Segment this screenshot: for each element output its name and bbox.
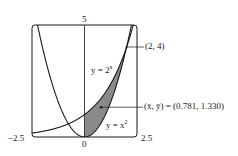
x-max-label: 2.5 bbox=[141, 134, 152, 143]
parabola-curve-label: y = x2 bbox=[106, 121, 128, 130]
x-origin-label: 0 bbox=[82, 140, 87, 149]
x-min-label: −2.5 bbox=[8, 134, 24, 143]
intersection-marker bbox=[126, 46, 128, 48]
intersection-label: (2, 4) bbox=[145, 42, 165, 51]
exponential-curve-label: y = 2x bbox=[91, 66, 113, 75]
plot-canvas bbox=[0, 0, 238, 156]
centroid-plot: 5 −2.5 2.5 0 (2, 4) (x̄, ȳ) = (0.781, 1.… bbox=[0, 0, 238, 156]
y-max-label: 5 bbox=[82, 15, 87, 24]
centroid-marker bbox=[100, 106, 103, 109]
centroid-label: (x̄, ȳ) = (0.781, 1.330) bbox=[144, 102, 224, 111]
